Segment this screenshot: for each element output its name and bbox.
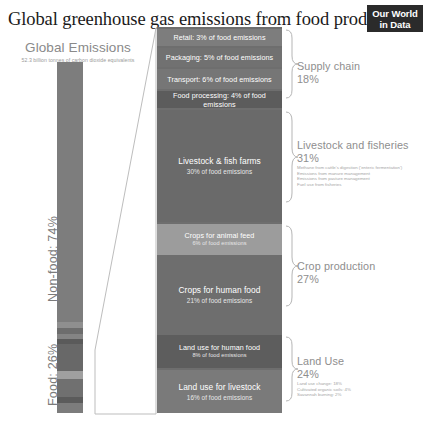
annotation-title: Land Use	[297, 355, 425, 368]
our-world-in-data-logo: Our World in Data	[367, 5, 423, 32]
segment-value: 16% of food emissions	[187, 393, 252, 402]
global-emissions-title: Global Emissions	[14, 40, 142, 55]
breakdown-segment[interactable]: Food processing: 4% of food emissions	[157, 91, 282, 108]
segment-label: Transport: 6% of food emissions	[167, 75, 271, 84]
total-bar-segment-food-landuse-livestock	[57, 403, 83, 413]
annotation-group: Supply chain18%	[297, 60, 425, 86]
total-bar-segment-food-crops-feed	[57, 371, 83, 379]
annotation-title: Crop production	[297, 260, 425, 273]
chart-canvas: Global greenhouse gas emissions from foo…	[0, 0, 427, 423]
annotation-percent: 18%	[297, 73, 425, 86]
segment-title: Livestock & fish farms	[178, 156, 261, 167]
breakdown-segment[interactable]: Land use for livestock16% of food emissi…	[157, 370, 282, 413]
food-emissions-breakdown-column: Retail: 3% of food emissionsPackaging: 5…	[157, 27, 282, 413]
segment-title: Land use for human food	[179, 343, 260, 352]
total-bar-segment-food-crops-human	[57, 379, 83, 397]
segment-value: 21% of food emissions	[187, 296, 252, 305]
annotation-title: Livestock and fisheries	[297, 139, 425, 152]
breakdown-segment[interactable]: Packaging: 5% of food emissions	[157, 48, 282, 67]
global-emissions-heading: Global Emissions 52.3 billion tonnes of …	[14, 40, 142, 63]
breakdown-segment[interactable]: Transport: 6% of food emissions	[157, 69, 282, 89]
non-food-share-label: Non-food: 74%	[46, 216, 60, 302]
annotation-percent: 27%	[297, 273, 425, 286]
breakdown-segment[interactable]: Crops for human food21% of food emission…	[157, 257, 282, 333]
annotation-title: Supply chain	[297, 60, 425, 73]
annotation-group: Crop production27%	[297, 260, 425, 286]
annotation-percent: 31%	[297, 152, 425, 165]
annotation-group: Land Use24%Land use change: 18%Cultivate…	[297, 355, 425, 398]
logo-line-1: Our World	[372, 8, 417, 19]
annotation-percent: 24%	[297, 368, 425, 381]
segment-label: Retail: 3% of food emissions	[173, 33, 265, 42]
breakdown-segment[interactable]: Land use for human food8% of food emissi…	[157, 335, 282, 368]
total-bar-segment-food-livestock	[57, 344, 83, 371]
annotation-detail: Savannah burning: 2%	[297, 392, 425, 398]
total-emissions-bar	[57, 62, 83, 413]
segment-value: 8% of food emissions	[192, 352, 246, 360]
logo-line-2: in Data	[380, 19, 411, 30]
annotation-detail: Fuel use from fisheries	[297, 182, 425, 188]
segment-label: Packaging: 5% of food emissions	[166, 53, 273, 62]
segment-title: Land use for livestock	[178, 382, 260, 393]
food-share-label: Food: 26%	[46, 344, 60, 406]
breakdown-segment[interactable]: Retail: 3% of food emissions	[157, 29, 282, 46]
segment-label: Food processing: 4% of food emissions	[157, 91, 282, 108]
segment-title: Crops for human food	[178, 285, 260, 296]
breakdown-segment[interactable]: Livestock & fish farms30% of food emissi…	[157, 110, 282, 222]
total-bar-segment-non-food	[57, 62, 83, 322]
annotation-group: Livestock and fisheries31%Methane from c…	[297, 139, 425, 187]
segment-value: 30% of food emissions	[187, 167, 252, 176]
breakdown-segment[interactable]: Crops for animal feed6% of food emission…	[157, 224, 282, 255]
segment-title: Crops for animal feed	[185, 231, 255, 240]
segment-value: 6% of food emissions	[192, 240, 246, 248]
